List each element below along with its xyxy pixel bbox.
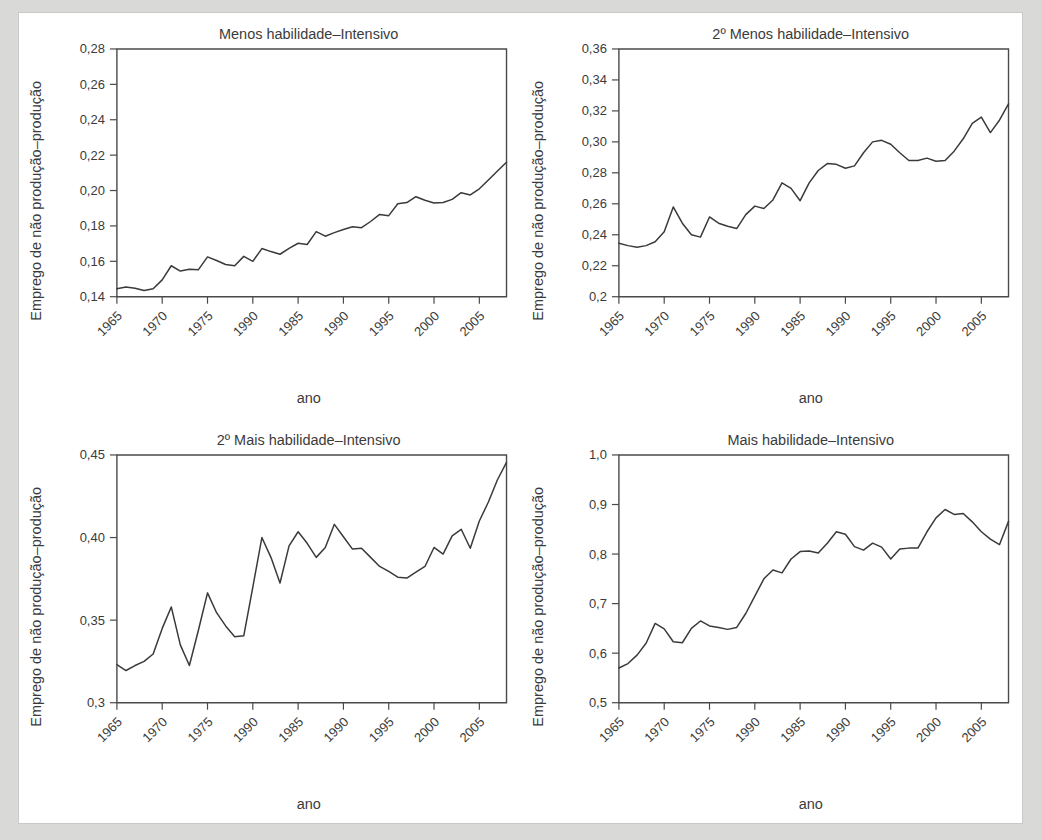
y-tick-label: 0,22 <box>80 148 105 163</box>
x-tick-label: 1990 <box>822 714 853 745</box>
x-tick-label: 1970 <box>139 308 170 339</box>
y-tick-label: 0,30 <box>581 134 606 149</box>
x-tick-label: 1985 <box>777 714 808 745</box>
y-tick-label: 0,9 <box>588 497 606 512</box>
y-tick-label: 0,28 <box>581 165 606 180</box>
panel-title: Menos habilidade–Intensivo <box>219 26 398 42</box>
x-tick-label: 2000 <box>411 308 442 339</box>
x-tick-label: 2005 <box>456 308 487 339</box>
y-tick-label: 0,40 <box>80 530 105 545</box>
y-tick-label: 0,16 <box>80 254 105 269</box>
chart-top-left: Menos habilidade–Intensivo ano Emprego d… <box>19 13 521 419</box>
figure-sheet: Menos habilidade–Intensivo ano Emprego d… <box>18 12 1023 824</box>
y-axis-title: Emprego de não produção–produção <box>28 81 44 321</box>
series-line <box>117 462 507 670</box>
x-tick-label: 2000 <box>913 714 944 745</box>
panel-title: Mais habilidade–Intensivo <box>727 432 894 448</box>
x-tick-label: 1995 <box>366 308 397 339</box>
x-tick-label: 1975 <box>185 308 216 339</box>
panel-title: 2º Menos habilidade–Intensivo <box>712 26 909 42</box>
y-tick-label: 0,22 <box>581 258 606 273</box>
x-tick-label: 2005 <box>456 714 487 745</box>
plot-area: 0,20,220,240,260,280,300,320,340,3619651… <box>581 41 1008 339</box>
x-tick-label: 1995 <box>867 714 898 745</box>
panel-grid: Menos habilidade–Intensivo ano Emprego d… <box>19 13 1022 823</box>
panel-mais-habilidade-intensivo: Mais habilidade–Intensivo ano Emprego de… <box>521 419 1023 825</box>
x-tick-label: 1965 <box>94 714 125 745</box>
x-axis-title: ano <box>297 390 321 406</box>
x-tick-label: 1975 <box>185 714 216 745</box>
y-axis-title: Emprego de não produção–produção <box>28 487 44 727</box>
y-tick-label: 0,34 <box>581 72 606 87</box>
x-tick-label: 1990 <box>731 714 762 745</box>
chart-bottom-right: Mais habilidade–Intensivo ano Emprego de… <box>521 419 1023 825</box>
panel-menos-habilidade-intensivo: Menos habilidade–Intensivo ano Emprego d… <box>19 13 521 419</box>
x-tick-label: 1985 <box>777 308 808 339</box>
y-tick-label: 0,14 <box>80 289 105 304</box>
y-tick-label: 0,7 <box>588 596 606 611</box>
x-tick-label: 1990 <box>731 308 762 339</box>
y-tick-label: 0,24 <box>581 227 606 242</box>
x-tick-label: 1965 <box>596 308 627 339</box>
x-tick-label: 1990 <box>230 308 261 339</box>
y-axis-title: Emprego de não produção–produção <box>529 487 545 727</box>
x-tick-label: 1970 <box>139 714 170 745</box>
x-axis-title: ano <box>798 390 822 406</box>
x-tick-label: 1990 <box>230 714 261 745</box>
plot-area: 0,50,60,70,80,91,01965197019751990198519… <box>588 447 1008 745</box>
y-tick-label: 0,45 <box>80 447 105 462</box>
chart-bottom-left: 2º Mais habilidade–Intensivo ano Emprego… <box>19 419 521 825</box>
panel-2o-menos-habilidade-intensivo: 2º Menos habilidade–Intensivo ano Empreg… <box>521 13 1023 419</box>
plot-area: 0,140,160,180,200,220,240,260,2819651970… <box>80 41 507 339</box>
y-tick-label: 0,20 <box>80 183 105 198</box>
y-tick-label: 0,28 <box>80 41 105 56</box>
x-tick-label: 1970 <box>641 308 672 339</box>
y-axis-title: Emprego de não produção–produção <box>529 81 545 321</box>
x-tick-label: 1975 <box>686 308 717 339</box>
x-tick-label: 1990 <box>321 714 352 745</box>
x-tick-label: 1965 <box>94 308 125 339</box>
y-tick-label: 0,26 <box>80 77 105 92</box>
series-line <box>117 162 507 290</box>
y-tick-label: 0,6 <box>588 645 606 660</box>
y-tick-label: 0,32 <box>581 103 606 118</box>
plot-area: 0,30,350,400,451965197019751990198519901… <box>80 447 507 745</box>
x-tick-label: 1975 <box>686 714 717 745</box>
y-tick-label: 0,5 <box>588 695 606 710</box>
chart-top-right: 2º Menos habilidade–Intensivo ano Empreg… <box>521 13 1023 419</box>
series-line <box>618 104 1008 247</box>
y-tick-label: 0,35 <box>80 612 105 627</box>
x-tick-label: 2000 <box>411 714 442 745</box>
y-tick-label: 0,26 <box>581 196 606 211</box>
y-tick-label: 0,24 <box>80 112 105 127</box>
series-line <box>618 509 1008 668</box>
y-tick-label: 0,36 <box>581 41 606 56</box>
y-tick-label: 0,2 <box>588 289 606 304</box>
x-axis-title: ano <box>798 795 822 811</box>
y-tick-label: 0,3 <box>87 695 105 710</box>
x-tick-label: 1970 <box>641 714 672 745</box>
x-tick-label: 1995 <box>366 714 397 745</box>
y-tick-label: 0,18 <box>80 218 105 233</box>
x-tick-label: 1990 <box>321 308 352 339</box>
x-tick-label: 1985 <box>275 714 306 745</box>
x-tick-label: 1965 <box>596 714 627 745</box>
x-tick-label: 2005 <box>958 714 989 745</box>
x-axis-title: ano <box>297 795 321 811</box>
x-tick-label: 1990 <box>822 308 853 339</box>
y-tick-label: 0,8 <box>588 546 606 561</box>
panel-2o-mais-habilidade-intensivo: 2º Mais habilidade–Intensivo ano Emprego… <box>19 419 521 825</box>
panel-title: 2º Mais habilidade–Intensivo <box>217 432 401 448</box>
x-tick-label: 1995 <box>867 308 898 339</box>
x-tick-label: 2005 <box>958 308 989 339</box>
x-tick-label: 2000 <box>913 308 944 339</box>
y-tick-label: 1,0 <box>588 447 606 462</box>
x-tick-label: 1985 <box>275 308 306 339</box>
